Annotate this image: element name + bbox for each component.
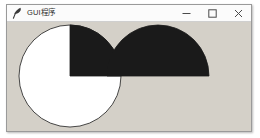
maximize-button[interactable] [199,5,225,22]
window-controls [173,5,251,21]
application-window: GUI程序 [6,4,252,132]
minimize-button[interactable] [173,5,199,22]
title-bar[interactable]: GUI程序 [7,5,251,22]
tk-canvas[interactable] [7,22,251,132]
feather-icon [12,7,23,19]
canvas-shape-layer [7,22,251,132]
pieslice-semicircle [107,25,209,76]
close-icon [233,8,244,19]
minimize-icon [181,8,192,19]
screenshot-root: GUI程序 [0,0,260,138]
maximize-icon [207,8,218,19]
close-button[interactable] [225,5,251,22]
window-title: GUI程序 [27,8,55,18]
